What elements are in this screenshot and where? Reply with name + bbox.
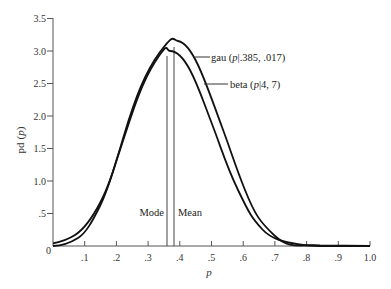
svg-text:.8: .8 <box>303 252 311 263</box>
svg-text:1.0: 1.0 <box>364 252 377 263</box>
svg-text:3.5: 3.5 <box>34 13 47 24</box>
y-ticks <box>47 19 53 214</box>
svg-text:.7: .7 <box>271 252 279 263</box>
svg-text:.3: .3 <box>144 252 152 263</box>
svg-text:.5: .5 <box>208 252 216 263</box>
svg-text:.5: .5 <box>39 208 47 219</box>
beta-label: beta (p|4, 7) <box>230 79 281 91</box>
svg-text:2.0: 2.0 <box>34 111 47 122</box>
mean-label: Mean <box>178 207 203 218</box>
y-axis-label: pd(p) <box>14 126 27 153</box>
gau-label: gau (p|.385, .017) <box>211 52 286 64</box>
svg-text:.2: .2 <box>113 252 121 263</box>
x-tick-labels: .1 .2 .3 .4 .5 .6 .7 .8 .9 1.0 <box>81 252 376 263</box>
y-tick-labels: .5 1.0 1.5 2.0 2.5 3.0 3.5 <box>34 13 47 219</box>
svg-text:2.5: 2.5 <box>34 78 47 89</box>
density-chart: .5 1.0 1.5 2.0 2.5 3.0 3.5 .1 .2 .3 .4 .… <box>0 0 391 289</box>
svg-text:1.0: 1.0 <box>34 176 47 187</box>
svg-text:1.5: 1.5 <box>34 143 47 154</box>
gau-curve <box>53 39 370 246</box>
svg-text:.1: .1 <box>81 252 89 263</box>
svg-text:.6: .6 <box>239 252 247 263</box>
mode-label: Mode <box>140 207 165 218</box>
beta-curve <box>53 48 370 246</box>
svg-text:.4: .4 <box>176 252 184 263</box>
svg-text:.9: .9 <box>335 252 343 263</box>
x-axis-label: p <box>205 266 212 278</box>
origin-label: 0 <box>46 245 51 256</box>
svg-text:pd(p): pd(p) <box>14 126 27 153</box>
svg-text:3.0: 3.0 <box>34 46 47 57</box>
